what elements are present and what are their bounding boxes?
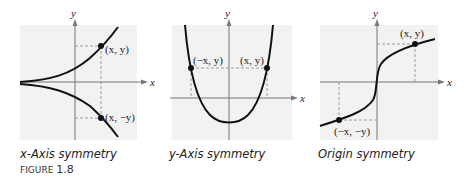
y-axis-symmetry-graph: x y (−x, y) (x, y) [155,0,315,145]
x-axis-symmetry-graph: x y (x, y) (x, −y) [0,0,160,145]
caption-origin-symmetry: Origin symmetry [318,147,415,161]
figure-number: 1.8 [56,163,74,176]
caption-y-axis-symmetry: y-Axis symmetry [169,147,265,161]
figure-label: FIGURE 1.8 [20,163,74,176]
point-marker [412,41,418,47]
point-marker [98,43,104,49]
point-marker [264,65,270,71]
x-axis-arrow-icon [291,96,298,101]
x-axis-arrow-icon [438,80,445,85]
point-label: (x, y) [240,54,264,67]
origin-symmetry-graph: x y (x, y) (−x, −y) [305,0,466,145]
point-label: (−x, −y) [334,125,371,138]
point-label: (−x, y) [193,54,223,67]
point-marker [98,115,104,121]
point-label: (x, −y) [105,111,135,124]
caption-x-axis-symmetry: x-Axis symmetry [20,147,117,161]
point-label: (x, y) [400,27,424,40]
point-marker [336,117,342,123]
x-axis-label: x [446,76,452,88]
point-label: (x, y) [105,43,129,56]
y-axis-label: y [224,7,230,19]
y-axis-arrow-icon [375,19,380,26]
y-axis-label: y [372,7,378,19]
y-axis-arrow-icon [73,19,78,26]
figure-word: FIGURE [20,165,53,175]
y-axis-label: y [70,7,76,19]
x-axis-arrow-icon [141,80,148,85]
y-axis-arrow-icon [227,19,232,26]
